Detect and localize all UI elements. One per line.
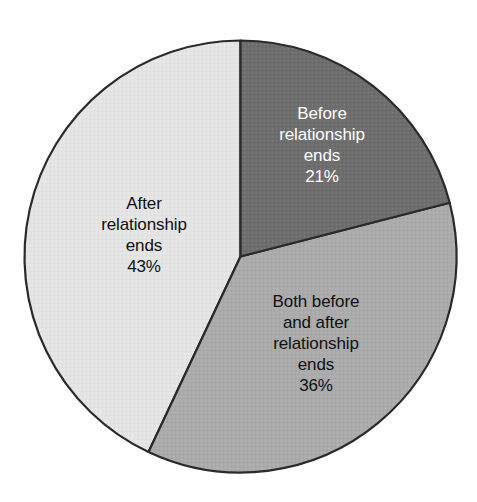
pie-slices [25, 41, 457, 473]
pie-chart-canvas [0, 0, 477, 502]
pie-chart: Before relationship ends 21% Both before… [0, 0, 477, 502]
